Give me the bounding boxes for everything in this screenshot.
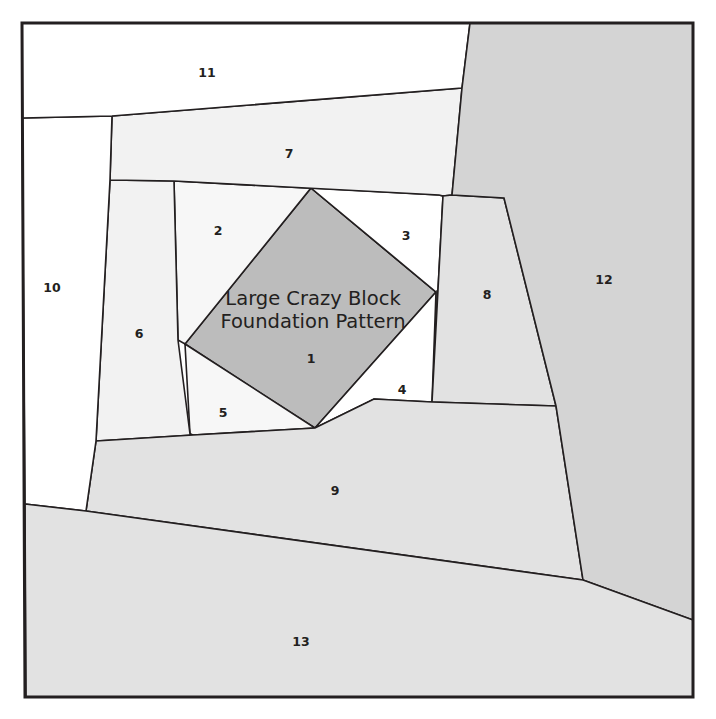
piece-number-label-13: 13 [292, 634, 309, 649]
piece-number-label-9: 9 [331, 483, 340, 498]
piece-number-label-12: 12 [595, 272, 612, 287]
piece-number-label-7: 7 [285, 146, 294, 161]
piece-number-label-4: 4 [398, 382, 407, 397]
piece-number-label-6: 6 [135, 326, 144, 341]
piece-number-label-8: 8 [483, 287, 492, 302]
piece-number-label-5: 5 [219, 405, 228, 420]
pattern-title-line-1: Large Crazy Block [225, 287, 401, 310]
piece-number-label-3: 3 [402, 228, 411, 243]
pieces-layer [22, 23, 693, 697]
piece-number-label-10: 10 [43, 280, 61, 295]
crazy-block-pattern-diagram: 12345678910111213 Large Crazy Block Foun… [0, 0, 716, 719]
piece-number-label-11: 11 [198, 65, 215, 80]
pattern-canvas: 12345678910111213 Large Crazy Block Foun… [0, 0, 716, 719]
piece-number-label-2: 2 [214, 223, 223, 238]
pattern-title-line-2: Foundation Pattern [220, 310, 405, 333]
piece-number-label-1: 1 [307, 351, 316, 366]
